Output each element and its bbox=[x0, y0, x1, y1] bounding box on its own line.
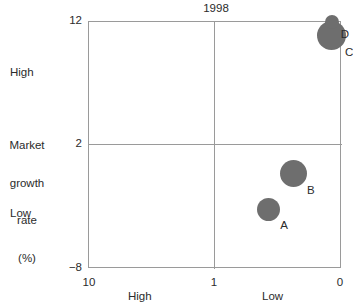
bubble-b bbox=[280, 160, 307, 187]
chart-title: 1998 bbox=[0, 2, 348, 15]
bubble-label-d: D bbox=[341, 28, 349, 40]
bubble-a bbox=[257, 198, 280, 221]
y-axis-title-line-2: growth bbox=[2, 177, 52, 190]
quadrant-divider-horizontal bbox=[89, 144, 342, 145]
x-axis-tick-10: 10 bbox=[80, 276, 98, 289]
x-axis-tick-0: 0 bbox=[332, 276, 348, 289]
x-axis-label-high: High bbox=[128, 290, 152, 303]
bubble-label-b: B bbox=[307, 184, 315, 196]
bubble-label-a: A bbox=[280, 219, 288, 231]
y-axis-tick-12: 12 bbox=[58, 14, 82, 27]
y-axis-title-line-4: (%) bbox=[2, 252, 52, 265]
y-axis-title: Market growth rate (%) bbox=[2, 114, 52, 289]
chart-title-text: 1998 bbox=[203, 2, 229, 15]
quadrant-divider-vertical bbox=[214, 22, 215, 269]
x-axis-label-low: Low bbox=[262, 290, 283, 303]
y-axis-tick-2: 2 bbox=[58, 137, 82, 150]
plot-area: ABCD bbox=[88, 21, 341, 268]
y-axis-tick-minus-8: −8 bbox=[56, 261, 82, 274]
bubble-label-c: C bbox=[345, 46, 353, 58]
y-axis-title-line-3: rate bbox=[2, 214, 52, 227]
y-axis-title-line-1: Market bbox=[2, 139, 52, 152]
y-axis-label-high: High bbox=[10, 66, 34, 79]
x-axis-tick-1: 1 bbox=[205, 276, 223, 289]
